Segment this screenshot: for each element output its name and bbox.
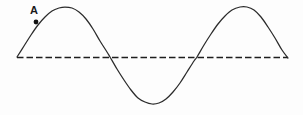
- wave-diagram: A: [0, 0, 303, 115]
- sine-wave-curve: [17, 7, 288, 104]
- point-a-label: A: [30, 4, 38, 16]
- point-a-marker-dot: [34, 20, 39, 25]
- wave-diagram-canvas: A: [0, 0, 303, 115]
